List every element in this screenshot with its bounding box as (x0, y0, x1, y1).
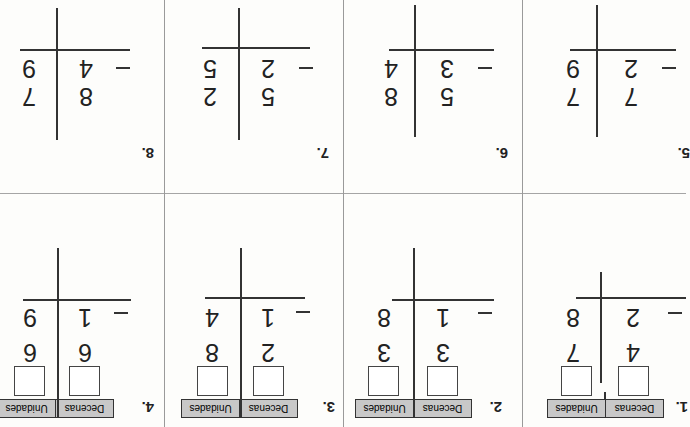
column-line (57, 8, 59, 140)
problem-number: 7. (316, 145, 329, 162)
answer-box-ones[interactable] (561, 366, 592, 396)
bottom-tens-digit: 3 (432, 56, 462, 81)
column-line (239, 8, 241, 140)
bottom-tens-digit: 4 (71, 56, 101, 81)
minus-sign (662, 68, 676, 70)
answer-box-ones[interactable] (368, 366, 399, 396)
top-ones-digit: 7 (558, 340, 588, 365)
answer-line (23, 300, 131, 302)
answer-box-tens[interactable] (253, 366, 284, 396)
minus-sign (299, 68, 313, 70)
minus-sign (114, 313, 128, 315)
bottom-ones-digit: 8 (369, 305, 399, 330)
column-line (58, 248, 60, 418)
problem-1: 1. DecenasUnidades 4 7 2 8 (515, 194, 686, 427)
top-ones-digit: 8 (376, 84, 406, 109)
place-value-header: DecenasUnidades (547, 399, 664, 418)
answer-box-ones[interactable] (14, 366, 45, 396)
problem-number: 1. (675, 399, 688, 416)
tens-header: Decenas (414, 400, 471, 417)
column-line (241, 248, 243, 418)
top-tens-digit: 7 (616, 84, 646, 109)
minus-sign (478, 68, 492, 70)
problem-7: 7. 5 2 2 5 (172, 0, 343, 193)
ones-header: Unidades (182, 400, 240, 417)
top-ones-digit: 3 (369, 340, 399, 365)
top-ones-digit: 7 (14, 84, 44, 109)
bottom-ones-digit: 9 (15, 305, 45, 330)
ones-header: Unidades (0, 400, 56, 417)
problem-number: 2. (489, 399, 502, 416)
problem-2: 2. DecenasUnidades 3 3 1 8 (351, 194, 522, 427)
answer-line (576, 298, 686, 300)
minus-sign (296, 312, 310, 314)
top-tens-digit: 5 (432, 84, 462, 109)
bottom-tens-digit: 1 (70, 305, 100, 330)
answer-line (205, 298, 305, 300)
column-line (605, 392, 607, 400)
problem-3: 3. DecenasUnidades 2 8 1 4 (172, 194, 343, 427)
top-ones-digit: 2 (195, 84, 225, 109)
bottom-ones-digit: 4 (376, 56, 406, 81)
answer-box-tens[interactable] (618, 366, 649, 396)
problem-5: 5. 7 7 2 9 (515, 0, 686, 193)
column-line (601, 272, 603, 383)
column-line (597, 5, 599, 137)
bottom-tens-digit: 2 (616, 56, 646, 81)
bottom-ones-digit: 9 (558, 56, 588, 81)
place-value-header: DecenasUnidades (181, 399, 298, 418)
ones-header: Unidades (356, 400, 414, 417)
answer-box-tens[interactable] (427, 366, 458, 396)
ones-header: Unidades (548, 400, 606, 417)
tens-header: Decenas (240, 400, 297, 417)
minus-sign (478, 313, 492, 315)
bottom-ones-digit: 9 (14, 56, 44, 81)
answer-line (389, 50, 494, 52)
column-divider (343, 0, 344, 427)
top-tens-digit: 4 (618, 340, 648, 365)
bottom-tens-digit: 2 (618, 305, 648, 330)
problem-number: 4. (141, 399, 154, 416)
minus-sign (668, 313, 682, 315)
bottom-ones-digit: 8 (558, 305, 588, 330)
tens-header: Decenas (56, 400, 113, 417)
tens-header: Decenas (606, 400, 663, 417)
column-line (414, 248, 416, 418)
top-tens-digit: 6 (70, 340, 100, 365)
problem-number: 3. (322, 399, 335, 416)
answer-line (202, 48, 310, 50)
problem-8: 8. 8 7 4 9 (0, 0, 164, 193)
top-tens-digit: 8 (71, 84, 101, 109)
bottom-tens-digit: 2 (253, 56, 283, 81)
problem-number: 6. (495, 145, 508, 162)
answer-line (392, 300, 494, 302)
top-ones-digit: 6 (15, 340, 45, 365)
top-ones-digit: 7 (558, 84, 588, 109)
answer-line (570, 50, 676, 52)
bottom-ones-digit: 5 (195, 56, 225, 81)
answer-line (20, 50, 130, 52)
problem-number: 5. (677, 145, 690, 162)
top-ones-digit: 8 (197, 340, 227, 365)
column-line (415, 5, 417, 137)
bottom-tens-digit: 1 (428, 305, 458, 330)
problem-4: 4. DecenasUnidades 6 6 1 9 (0, 194, 164, 427)
problem-number: 8. (141, 145, 154, 162)
problem-6: 6. 5 8 3 4 (351, 0, 522, 193)
top-tens-digit: 3 (428, 340, 458, 365)
top-tens-digit: 2 (253, 340, 283, 365)
minus-sign (116, 68, 130, 70)
column-divider (164, 0, 165, 427)
top-tens-digit: 5 (253, 84, 283, 109)
answer-box-tens[interactable] (69, 366, 100, 396)
bottom-ones-digit: 4 (197, 305, 227, 330)
bottom-tens-digit: 1 (253, 305, 283, 330)
answer-box-ones[interactable] (197, 366, 228, 396)
